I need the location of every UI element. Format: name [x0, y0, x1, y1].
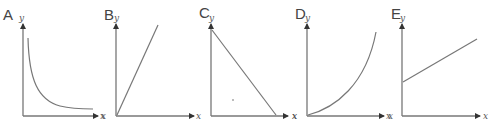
graphs-figure: A y x B y x x C y x D y x x E y — [0, 0, 496, 128]
graph-panel-e: E y x x — [386, 5, 488, 121]
panel-letter-a: A — [3, 6, 13, 23]
origin-label-d: x — [292, 111, 297, 121]
x-axis-label-b: x — [196, 111, 201, 121]
y-axis-label-e: y — [399, 13, 406, 23]
panel-letter-b: B — [104, 6, 114, 23]
graph-panel-c: C y x — [199, 4, 297, 121]
graph-panel-d: D y x x — [292, 5, 393, 121]
y-axis-label-a: y — [18, 13, 25, 23]
graph-panel-a: A y x — [3, 6, 105, 121]
origin-label-e: x — [386, 111, 391, 121]
curve-a-inverse — [28, 38, 93, 109]
curve-d-exponential — [308, 32, 376, 115]
stray-dot — [232, 99, 234, 101]
y-axis-label-b: y — [113, 13, 120, 23]
curve-c-decreasing — [212, 30, 276, 115]
curve-e-linear-intercept — [403, 39, 477, 82]
x-axis-label-e: x — [483, 111, 488, 121]
y-axis-label-d: y — [304, 13, 311, 23]
origin-label-b: x — [101, 111, 106, 121]
graph-panel-b: B y x x — [101, 6, 201, 121]
curve-b-linear — [117, 25, 158, 115]
y-axis-label-c: y — [208, 13, 215, 23]
